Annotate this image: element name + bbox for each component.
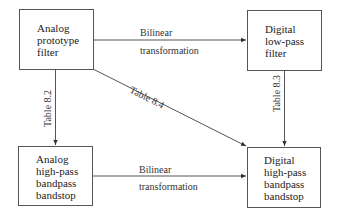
edge-bottom-label-transformation: transformation bbox=[139, 181, 198, 192]
node-label-line: Digital bbox=[264, 154, 306, 166]
node-label-line: Analog bbox=[37, 22, 79, 34]
node-label-line: low-pass bbox=[265, 35, 304, 47]
node-label-line: high-pass bbox=[36, 165, 78, 177]
node-label-line: Digital bbox=[265, 23, 304, 35]
edge-right-label-table-8-3: Table 8.3 bbox=[271, 75, 282, 112]
node-label-line: high-pass bbox=[264, 166, 306, 178]
node-label-line: prototype bbox=[37, 34, 79, 46]
node-label-line: filter bbox=[265, 47, 304, 59]
edge-left-label-table-8-2: Table 8.2 bbox=[42, 90, 53, 127]
node-analog-prototype-filter: Analog prototype filter bbox=[19, 9, 94, 70]
node-label-line: filter bbox=[37, 46, 79, 58]
node-analog-highpass-bandpass-bandstop: Analog high-pass bandpass bandstop bbox=[18, 146, 93, 206]
node-label-line: bandpass bbox=[264, 178, 306, 190]
edge-bottom-label-bilinear: Bilinear bbox=[139, 164, 171, 175]
edge-diagonal-arrow bbox=[93, 69, 246, 146]
node-label-line: bandstop bbox=[36, 189, 78, 201]
node-digital-lowpass-filter: Digital low-pass filter bbox=[247, 10, 322, 71]
node-label-line: Analog bbox=[36, 153, 78, 165]
node-digital-highpass-bandpass-bandstop: Digital high-pass bandpass bandstop bbox=[247, 147, 321, 208]
edge-top-label-transformation: transformation bbox=[140, 45, 199, 56]
node-label-line: bandpass bbox=[36, 177, 78, 189]
edge-top-label-bilinear: Bilinear bbox=[140, 27, 172, 38]
node-label-line: bandstop bbox=[264, 190, 306, 202]
